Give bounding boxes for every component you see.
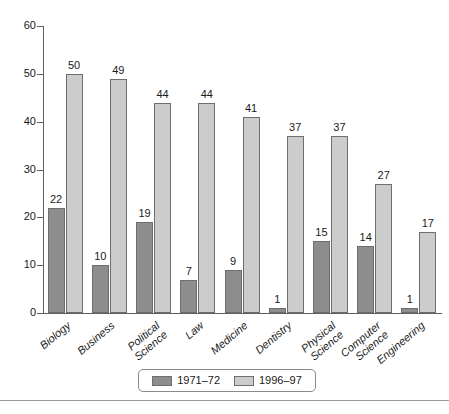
bar-value-label: 17 — [411, 218, 444, 229]
bar — [66, 74, 83, 313]
bar — [225, 270, 242, 313]
bar-value-label: 44 — [190, 89, 223, 100]
bar — [136, 222, 153, 313]
x-axis-line — [43, 313, 442, 314]
y-axis-tick-label: 50 — [6, 68, 36, 79]
legend-entry-1971-72: 1971–72 — [152, 375, 220, 386]
bar — [198, 103, 215, 313]
bar-value-label: 27 — [367, 170, 400, 181]
bar-value-label: 49 — [102, 65, 135, 76]
y-axis-tick-label: 10 — [6, 259, 36, 270]
bar-value-label: 50 — [58, 60, 91, 71]
bar — [110, 79, 127, 313]
chart-legend: 1971–72 1996–97 — [138, 369, 316, 392]
bar — [401, 308, 418, 313]
plot-area: 22501049194474494113715371427117 — [43, 26, 441, 313]
legend-swatch-icon — [152, 376, 172, 386]
bar — [419, 232, 436, 313]
legend-entry-1996-97: 1996–97 — [234, 375, 302, 386]
bar — [92, 265, 109, 313]
y-axis-tick-label: 60 — [6, 20, 36, 31]
y-axis-tick-label: 20 — [6, 211, 36, 222]
bar — [180, 280, 197, 313]
legend-swatch-icon — [234, 376, 254, 386]
bar — [48, 208, 65, 313]
bar — [243, 117, 260, 313]
legend-label: 1996–97 — [259, 375, 302, 386]
bar-value-label: 41 — [235, 103, 268, 114]
bar-value-label: 37 — [323, 122, 356, 133]
bar — [357, 246, 374, 313]
bar — [313, 241, 330, 313]
y-axis-tick-label: 30 — [6, 164, 36, 175]
bar-chart-figure: 0102030405060 22501049194474494113715371… — [0, 0, 449, 414]
bar — [287, 136, 304, 313]
bar — [269, 308, 286, 313]
y-axis-tick-label: 0 — [6, 307, 36, 318]
legend-label: 1971–72 — [177, 375, 220, 386]
bar — [331, 136, 348, 313]
y-axis-tick-label: 40 — [6, 116, 36, 127]
bar-value-label: 44 — [146, 89, 179, 100]
bar — [375, 184, 392, 313]
bar — [154, 103, 171, 313]
page-divider-rule — [0, 400, 449, 401]
bar-value-label: 37 — [279, 122, 312, 133]
